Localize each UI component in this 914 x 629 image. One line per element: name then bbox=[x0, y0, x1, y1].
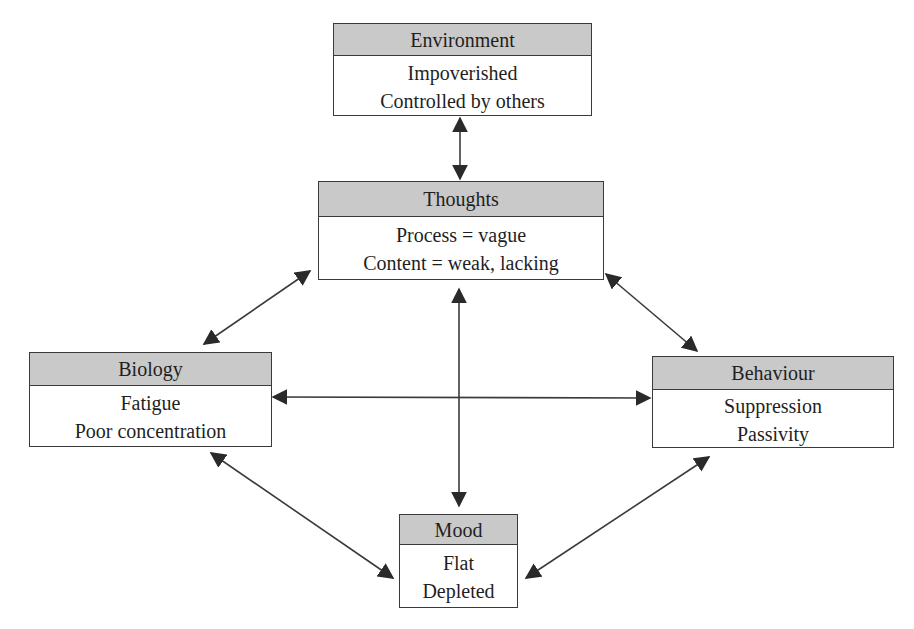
biology-title: Biology bbox=[30, 353, 271, 386]
mood-details: Flat Depleted bbox=[400, 545, 517, 607]
thoughts-title: Thoughts bbox=[319, 182, 603, 217]
thoughts-line-2: Content = weak, lacking bbox=[319, 249, 603, 277]
arrow-thoughts-biology bbox=[204, 271, 310, 344]
arrow-biology-behaviour bbox=[273, 397, 650, 398]
behaviour-title: Behaviour bbox=[653, 357, 893, 390]
arrow-biology-mood bbox=[211, 453, 393, 578]
mood-line-1: Flat bbox=[400, 549, 517, 577]
environment-box: Environment Impoverished Controlled by o… bbox=[333, 23, 592, 116]
mood-title: Mood bbox=[400, 515, 517, 545]
thoughts-details: Process = vague Content = weak, lacking bbox=[319, 217, 603, 279]
arrow-behaviour-mood bbox=[526, 457, 709, 578]
biology-line-1: Fatigue bbox=[30, 389, 271, 417]
environment-title: Environment bbox=[334, 24, 591, 56]
biology-line-2: Poor concentration bbox=[30, 417, 271, 445]
thoughts-line-1: Process = vague bbox=[319, 221, 603, 249]
biology-details: Fatigue Poor concentration bbox=[30, 386, 271, 446]
arrow-thoughts-behaviour bbox=[606, 274, 697, 351]
mood-box: Mood Flat Depleted bbox=[399, 514, 518, 608]
thoughts-box: Thoughts Process = vague Content = weak,… bbox=[318, 181, 604, 280]
behaviour-details: Suppression Passivity bbox=[653, 390, 893, 448]
environment-details: Impoverished Controlled by others bbox=[334, 56, 591, 116]
behaviour-line-2: Passivity bbox=[653, 420, 893, 448]
biology-box: Biology Fatigue Poor concentration bbox=[29, 352, 272, 447]
behaviour-box: Behaviour Suppression Passivity bbox=[652, 356, 894, 448]
environment-line-2: Controlled by others bbox=[334, 87, 591, 115]
behaviour-line-1: Suppression bbox=[653, 392, 893, 420]
mood-line-2: Depleted bbox=[400, 577, 517, 605]
environment-line-1: Impoverished bbox=[334, 59, 591, 87]
